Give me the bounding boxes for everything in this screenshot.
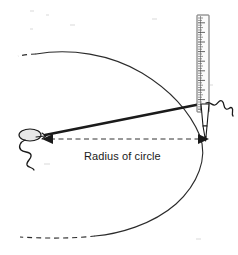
- string-taut-line: [45, 103, 206, 135]
- pin-icon: [19, 129, 46, 141]
- scan-noise: [30, 10, 213, 240]
- circle-arc-group: [18, 52, 203, 238]
- circle-arc-dashed-top: [18, 54, 36, 56]
- arrow-right-icon: [198, 134, 209, 144]
- radius-of-circle-label: Radius of circle: [84, 150, 161, 162]
- diagram-canvas: Drawing a circle with pin, string and pe…: [0, 0, 238, 255]
- circle-construction-diagram: Drawing a circle with pin, string and pe…: [0, 0, 238, 255]
- string-squiggle-right-icon: [206, 101, 233, 116]
- pencil-icon: [201, 104, 209, 142]
- ruler-icon: [197, 15, 209, 112]
- circle-arc-solid: [36, 52, 203, 236]
- string-squiggle-left-icon: [20, 140, 34, 170]
- radius-dimension-group: [42, 134, 209, 144]
- circle-arc-dashed-bottom: [20, 236, 95, 238]
